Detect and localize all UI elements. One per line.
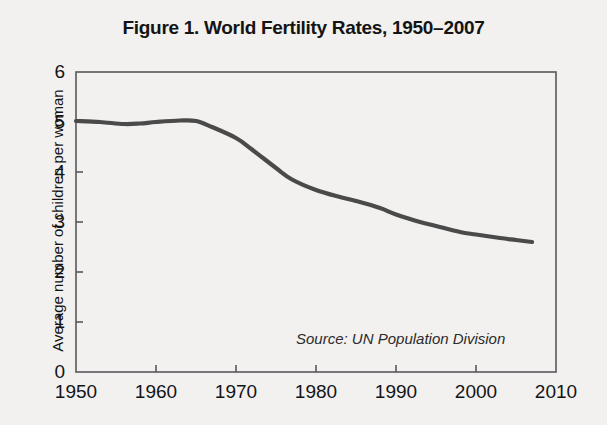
data-series-group <box>76 120 532 242</box>
y-tick-label: 4 <box>54 161 65 182</box>
y-tick-label: 0 <box>54 361 65 382</box>
y-tick-label: 3 <box>54 211 65 232</box>
y-tick-label: 2 <box>54 261 65 282</box>
y-tick-label: 6 <box>54 61 65 82</box>
y-tick-label: 5 <box>54 111 65 132</box>
x-tick-label: 1970 <box>215 381 257 402</box>
figure-container: Figure 1. World Fertility Rates, 1950–20… <box>0 0 607 425</box>
chart-plot-area: 0123456 1950196019701980199020002010 <box>0 0 607 425</box>
x-tick-label: 1990 <box>375 381 417 402</box>
axis-frame <box>76 72 556 372</box>
x-tick-label: 1960 <box>135 381 177 402</box>
x-tick-label: 1980 <box>295 381 337 402</box>
x-tick-label: 2010 <box>535 381 577 402</box>
x-axis-ticks: 1950196019701980199020002010 <box>55 365 577 402</box>
x-tick-label: 1950 <box>55 381 97 402</box>
y-axis-ticks: 0123456 <box>54 61 83 382</box>
y-tick-label: 1 <box>54 311 65 332</box>
source-note: Source: UN Population Division <box>296 330 505 347</box>
x-tick-label: 2000 <box>455 381 497 402</box>
data-line-world-fertility-rate <box>76 120 532 242</box>
